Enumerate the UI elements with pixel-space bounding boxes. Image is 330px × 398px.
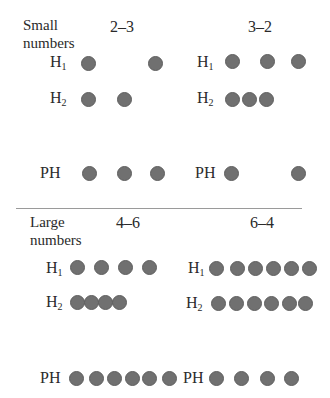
row-label-h1: H1 xyxy=(46,259,63,282)
row-label-ph: PH xyxy=(195,164,215,182)
dot xyxy=(70,295,85,310)
dot xyxy=(70,260,85,275)
dot xyxy=(302,261,317,276)
dot xyxy=(259,92,274,107)
section-divider xyxy=(16,208,302,209)
row-label-subscript: 2 xyxy=(58,301,63,312)
dot xyxy=(118,260,133,275)
row-label-ph: PH xyxy=(183,369,203,387)
row-label-h1: H1 xyxy=(50,53,67,76)
dot xyxy=(107,371,122,386)
row-label-text: H xyxy=(50,53,62,70)
row-label-text: H xyxy=(186,294,198,311)
dot xyxy=(264,296,279,311)
dot xyxy=(291,54,306,69)
dot xyxy=(142,371,157,386)
row-label-ph: PH xyxy=(40,164,60,182)
dot xyxy=(89,371,104,386)
dot xyxy=(209,371,224,386)
row-label-subscript: 2 xyxy=(209,97,214,108)
dot xyxy=(117,92,132,107)
dot xyxy=(247,296,262,311)
section-label-line1: Large xyxy=(30,214,65,231)
dot xyxy=(112,295,127,310)
row-label-h1: H1 xyxy=(197,53,214,76)
row-label-h2: H2 xyxy=(46,293,63,316)
row-label-subscript: 2 xyxy=(198,302,203,313)
section-label-line2: numbers xyxy=(30,232,82,249)
dot xyxy=(209,261,224,276)
dot xyxy=(260,371,275,386)
dot xyxy=(260,54,275,69)
condition-title: 6–4 xyxy=(250,214,274,232)
row-label-text: H xyxy=(188,259,200,276)
dot xyxy=(229,296,244,311)
dot xyxy=(248,261,263,276)
dot xyxy=(142,260,157,275)
row-label-h2: H2 xyxy=(186,294,203,317)
dot xyxy=(81,56,96,71)
dot xyxy=(162,371,177,386)
dot xyxy=(150,166,165,181)
dot xyxy=(284,371,299,386)
dot xyxy=(224,166,239,181)
row-label-h2: H2 xyxy=(197,89,214,112)
dot xyxy=(117,166,132,181)
dot xyxy=(291,166,306,181)
dot xyxy=(234,371,249,386)
condition-title: 2–3 xyxy=(110,18,134,36)
row-label-text: H xyxy=(46,293,58,310)
section-label-line2: numbers xyxy=(23,35,75,52)
row-label-text: H xyxy=(197,89,209,106)
dot xyxy=(125,371,140,386)
condition-title: 3–2 xyxy=(248,18,272,36)
dot xyxy=(69,371,84,386)
row-label-h1: H1 xyxy=(188,259,205,282)
dot xyxy=(84,295,99,310)
dot xyxy=(81,92,96,107)
row-label-subscript: 1 xyxy=(209,61,214,72)
row-label-subscript: 1 xyxy=(200,267,205,278)
row-label-text: H xyxy=(50,89,62,106)
dot xyxy=(211,296,226,311)
row-label-subscript: 2 xyxy=(62,97,67,108)
dot xyxy=(266,261,281,276)
row-label-subscript: 1 xyxy=(62,61,67,72)
dot xyxy=(282,296,297,311)
row-label-ph: PH xyxy=(40,369,60,387)
dot xyxy=(148,56,163,71)
dot xyxy=(225,54,240,69)
dot xyxy=(98,295,113,310)
dot xyxy=(94,260,109,275)
row-label-text: H xyxy=(197,53,209,70)
section-label-line1: Small xyxy=(23,17,58,34)
dot xyxy=(230,261,245,276)
dot xyxy=(284,261,299,276)
row-label-h2: H2 xyxy=(50,89,67,112)
dot xyxy=(225,92,240,107)
condition-title: 4–6 xyxy=(116,214,140,232)
row-label-subscript: 1 xyxy=(58,267,63,278)
dot xyxy=(298,296,313,311)
dot xyxy=(82,166,97,181)
row-label-text: H xyxy=(46,259,58,276)
dot xyxy=(242,92,257,107)
